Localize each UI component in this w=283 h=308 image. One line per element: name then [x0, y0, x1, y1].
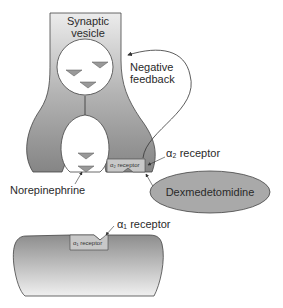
norepinephrine-label: Norepinephrine [10, 184, 85, 196]
label-line: Negative [130, 61, 175, 73]
label-line: vesicle [60, 27, 116, 39]
label-line: feedback [130, 73, 175, 85]
alpha2-receptor-label: α₂ receptor [166, 147, 220, 159]
negative-feedback-label: Negative feedback [130, 61, 175, 85]
alpha2-receptor-inner-label: α₂ receptor [110, 162, 139, 168]
diagram-canvas [0, 0, 283, 308]
dexmedetomidine-label: Dexmedetomidine [150, 186, 270, 198]
alpha1-receptor-inner-label: α₁ receptor [73, 240, 102, 246]
norepinephrine-pointer [75, 172, 82, 184]
alpha1-receptor-label: α₁ receptor [117, 218, 170, 230]
alpha1-pointer [106, 226, 114, 235]
synaptic-vesicle-label: Synaptic vesicle [60, 15, 116, 39]
label-line: Synaptic [60, 15, 116, 27]
synaptic-vesicle-top [57, 39, 113, 95]
